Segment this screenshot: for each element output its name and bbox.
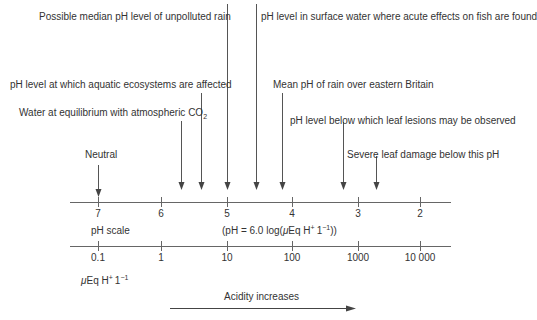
ph-scale-label: pH scale [91, 225, 130, 237]
unit-plus: + [109, 274, 113, 281]
label-co2-equilibrium: Water at equilibrium with atmospheric CO… [19, 107, 207, 119]
ph-tick-3: 3 [355, 208, 361, 220]
label-severe-leaf-damage: Severe leaf damage below this pH [347, 149, 499, 161]
label-mean-rain-britain: Mean pH of rain over eastern Britain [273, 79, 434, 91]
ph-tick-7: 7 [95, 208, 101, 220]
ph-tick-6: 6 [158, 208, 164, 220]
unit-main: Eq H [86, 275, 108, 286]
ph-tick-4: 4 [289, 208, 295, 220]
conc-tick-10000: 10 000 [405, 252, 436, 264]
ph-tick-5: 5 [224, 208, 230, 220]
conc-tick-1000: 1000 [347, 252, 369, 264]
conc-tick-10: 10 [221, 252, 232, 264]
formula-unit: Eq H [288, 225, 310, 236]
co2-subscript: 2 [203, 113, 207, 120]
label-unpolluted-rain: Possible median pH level of unpolluted r… [39, 11, 231, 23]
conc-tick-0-1: 0.1 [91, 252, 105, 264]
conc-tick-100: 100 [284, 252, 301, 264]
conc-unit-label: μEq H+1−1 [81, 275, 128, 287]
acidity-label: Acidity increases [224, 291, 299, 303]
ph-tick-2: 2 [417, 208, 423, 220]
label-leaf-lesions: pH level below which leaf lesions may be… [290, 115, 516, 127]
label-neutral: Neutral [85, 149, 117, 161]
formula-suffix: )) [330, 225, 337, 236]
ph-formula: (pH = 6.0 log(μEq H+1−1)) [222, 225, 337, 237]
label-aquatic-ecosystems: pH level at which aquatic ecosystems are… [10, 79, 232, 91]
formula-plus: + [311, 224, 315, 231]
co2-label-text: Water at equilibrium with atmospheric CO [19, 107, 203, 118]
formula-prefix: (pH = 6.0 log( [222, 225, 283, 236]
unit-exp: −1 [120, 274, 128, 281]
conc-tick-1: 1 [158, 252, 164, 264]
label-fish-effects: pH level in surface water where acute ef… [261, 11, 537, 23]
